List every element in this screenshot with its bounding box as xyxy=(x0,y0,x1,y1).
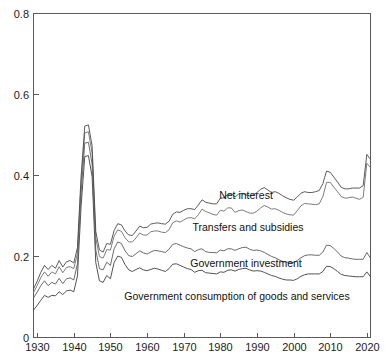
chart-container: 0.8 0.6 0.4 0.2 0 1930194019501960197019… xyxy=(0,0,386,353)
x-tick-label-1930: 1930 xyxy=(25,341,49,353)
y-tick-label-0.4: 0.4 xyxy=(14,170,29,182)
series-label-government-consumption: Government consumption of goods and serv… xyxy=(124,290,349,302)
series-lines xyxy=(34,125,371,310)
chart-svg: 0.8 0.6 0.4 0.2 0 1930194019501960197019… xyxy=(0,0,386,353)
y-tick-label-0.2: 0.2 xyxy=(14,251,29,263)
x-tick-label-1980: 1980 xyxy=(208,341,232,353)
series-annotations: Net interest Transfers and subsidies Gov… xyxy=(124,189,349,302)
y-axis-ticks xyxy=(34,14,39,338)
plot-frame xyxy=(34,14,371,338)
series-label-government-investment: Government investment xyxy=(190,257,302,269)
x-tick-label-1950: 1950 xyxy=(98,341,122,353)
x-tick-label-1990: 1990 xyxy=(245,341,269,353)
x-tick-label-1970: 1970 xyxy=(172,341,196,353)
plot-border xyxy=(34,14,371,338)
series-label-net-interest: Net interest xyxy=(219,189,273,201)
y-axis-labels: 0.8 0.6 0.4 0.2 0 xyxy=(14,8,29,344)
x-axis-ticks xyxy=(38,333,368,338)
x-axis-labels: 1930194019501960197019801990200020102020 xyxy=(25,341,379,353)
series-label-transfers-and-subsidies: Transfers and subsidies xyxy=(192,221,303,233)
x-tick-label-1960: 1960 xyxy=(135,341,159,353)
x-tick-label-2020: 2020 xyxy=(355,341,379,353)
y-tick-label-0.6: 0.6 xyxy=(14,89,29,101)
y-tick-label-0.8: 0.8 xyxy=(14,8,29,20)
x-tick-label-1940: 1940 xyxy=(62,341,86,353)
x-tick-label-2010: 2010 xyxy=(318,341,342,353)
x-tick-label-2000: 2000 xyxy=(282,341,306,353)
